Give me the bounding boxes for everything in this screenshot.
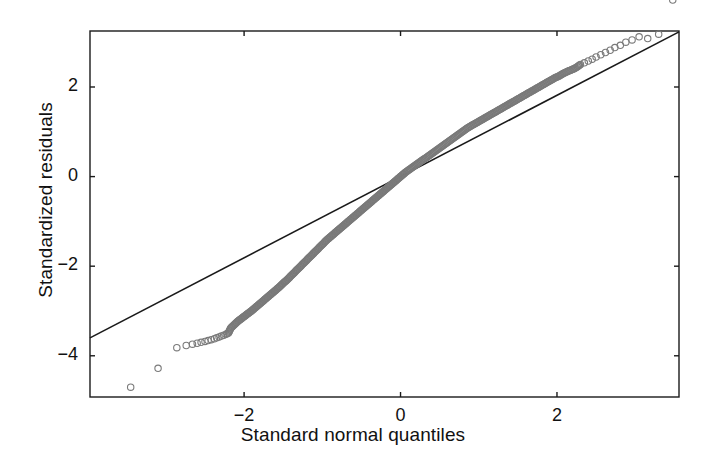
y-tick-label: −2	[24, 254, 78, 275]
plot-frame	[90, 31, 679, 397]
data-point	[629, 37, 635, 43]
data-point	[155, 365, 161, 371]
qq-plot-canvas	[0, 0, 706, 460]
data-point	[645, 35, 651, 41]
y-tick-label: 0	[24, 165, 78, 186]
axis-tick-marks	[90, 31, 679, 397]
data-point-series	[127, 0, 675, 390]
x-tick-label: 2	[527, 405, 587, 426]
qq-plot-figure: Standard normal quantiles Standardized r…	[0, 0, 706, 460]
data-point	[174, 345, 180, 351]
data-point	[127, 384, 133, 390]
y-tick-label: 2	[24, 75, 78, 96]
data-point	[183, 342, 189, 348]
y-axis-label: Standardized residuals	[35, 60, 57, 340]
x-axis-label: Standard normal quantiles	[0, 424, 706, 446]
y-tick-label: −4	[24, 344, 78, 365]
data-point	[585, 58, 591, 64]
reference-line	[90, 32, 679, 338]
data-point	[623, 39, 629, 45]
data-point	[670, 0, 676, 3]
x-tick-label: 0	[371, 405, 431, 426]
x-tick-label: −2	[214, 405, 274, 426]
data-point	[655, 31, 661, 37]
data-point	[636, 34, 642, 40]
